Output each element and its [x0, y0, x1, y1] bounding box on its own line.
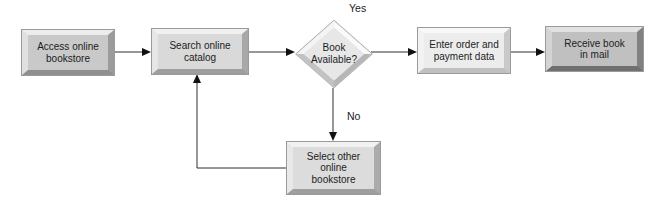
node-select-label: Select other online bookstore	[307, 151, 360, 186]
arrowhead-into-select	[329, 132, 337, 141]
node-search-online-catalog: Search online catalog	[152, 29, 248, 74]
flowchart-canvas: Access online bookstore Search online ca…	[0, 0, 661, 202]
node-access-online-bookstore: Access online bookstore	[22, 30, 114, 75]
node-receive-book-mail: Receive book in mail	[546, 27, 643, 71]
arrowhead-into-search	[142, 48, 151, 56]
node-search-label: Search online catalog	[169, 40, 230, 63]
node-access-label: Access online bookstore	[37, 41, 99, 64]
node-enter-label: Enter order and payment data	[429, 39, 499, 62]
node-decision-label: Book Available?	[311, 42, 357, 65]
edge-label-no: No	[347, 110, 360, 122]
node-select-other-bookstore: Select other online bookstore	[287, 142, 380, 194]
arrowhead-loop-into-search	[193, 74, 201, 83]
arrowhead-into-decision	[286, 48, 295, 56]
edge-label-yes: Yes	[349, 2, 366, 14]
edge-select-loop-to-search	[197, 83, 287, 168]
arrowhead-into-enter	[408, 48, 417, 56]
node-book-available: Book Available?	[296, 20, 372, 87]
node-enter-order-payment: Enter order and payment data	[418, 28, 510, 73]
decision-label-wrap: Book Available?	[296, 20, 372, 87]
arrowhead-into-receive	[536, 48, 545, 56]
node-receive-label: Receive book in mail	[564, 38, 625, 61]
